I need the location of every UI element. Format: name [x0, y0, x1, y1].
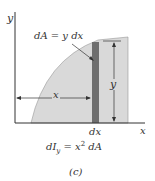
x-dimension-label: x [52, 90, 60, 100]
figure-caption: (c) [69, 167, 82, 177]
equation: dIy = x2 dA [46, 141, 102, 155]
equation-dA: dA [85, 141, 102, 152]
x-arrow-left [16, 96, 21, 100]
element-label: dA = y dx [34, 31, 83, 41]
y-dimension-label: y [110, 79, 116, 90]
equation-equals: = [60, 141, 75, 152]
x-axis-label: x [140, 126, 146, 136]
element-strip [92, 42, 99, 123]
equation-lhs: dI [46, 141, 56, 152]
dx-label: dx [89, 127, 101, 137]
moment-of-inertia-diagram: y x dA = y dx x y dx dIy = x2 dA (c) [0, 0, 155, 181]
y-axis-label: y [7, 13, 13, 24]
